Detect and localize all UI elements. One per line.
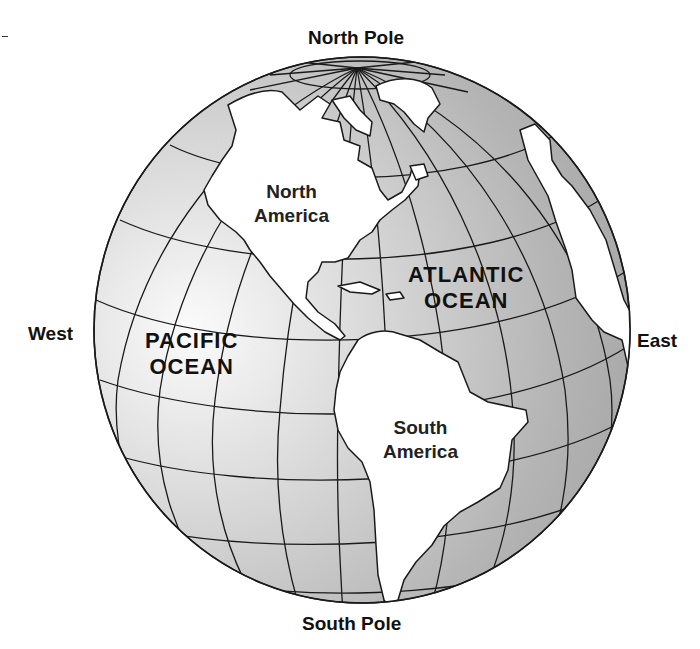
north-pole-label: North Pole <box>308 27 404 49</box>
south-america-line2: America <box>383 440 458 464</box>
pacific-ocean-label: PACIFIC OCEAN <box>145 328 238 380</box>
north-america-line1: North <box>254 180 329 204</box>
atlantic-ocean-label: ATLANTIC OCEAN <box>408 262 524 314</box>
west-label: West <box>28 323 73 345</box>
north-america-label: North America <box>254 180 329 228</box>
north-america-line2: America <box>254 204 329 228</box>
atlantic-ocean-line1: ATLANTIC <box>408 262 524 288</box>
hispaniola-landmass <box>386 292 404 300</box>
east-label: East <box>637 330 677 352</box>
south-america-line1: South <box>383 416 458 440</box>
pacific-ocean-line2: OCEAN <box>145 354 238 380</box>
atlantic-ocean-line2: OCEAN <box>408 288 524 314</box>
south-america-label: South America <box>383 416 458 464</box>
globe-graphic <box>0 0 700 649</box>
globe-diagram: North Pole South Pole West East PACIFIC … <box>0 0 700 649</box>
south-pole-label: South Pole <box>302 613 401 635</box>
pacific-ocean-line1: PACIFIC <box>145 328 238 354</box>
